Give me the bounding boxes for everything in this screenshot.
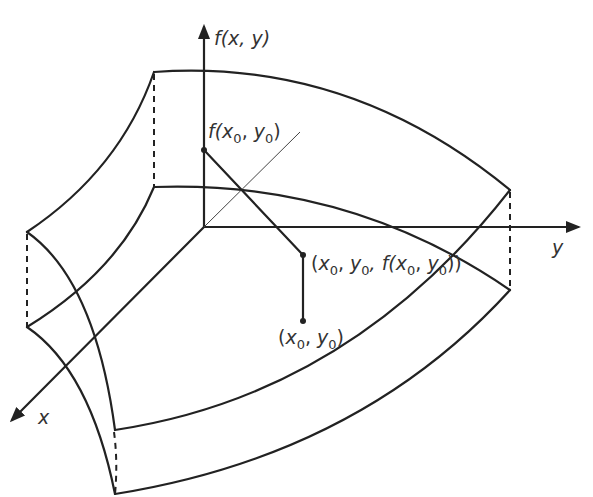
domain-point-dot [300,318,306,324]
surface-bottom-left-edge [27,187,154,327]
surface-value-dot [201,147,207,153]
surface-point-dot [300,252,306,258]
surface-value-label: f(x0, y0) [208,120,281,146]
y-axis-label: y [551,236,564,258]
dashed-edge-front [114,432,116,494]
point-construction [201,147,306,324]
x-axis-label: x [37,406,50,428]
surface-bottom-front-edge [115,290,510,494]
surface-diagram: f(x, y) y x f(x0, y0) (x0, y0, f(x0, y0)… [0,0,593,497]
projection-guide-line [204,132,300,227]
surface-top-sheet [27,71,510,430]
axes [12,27,578,420]
surface-bottom-sheet [27,187,510,494]
surface-point-label: (x0, y0, f(x0, y0)) [311,252,462,278]
domain-point-label: (x0, y0) [278,326,344,352]
surface-top-left-edge [27,72,154,232]
line-surface-value-to-surface-point [204,150,303,255]
vertical-axis-label: f(x, y) [214,27,270,49]
